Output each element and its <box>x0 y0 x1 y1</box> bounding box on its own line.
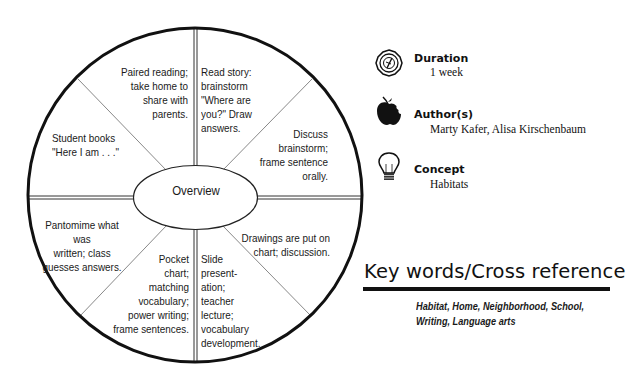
keywords-heading: Key words/Cross reference <box>364 260 625 283</box>
segment-slide-presentation: Slide present- ation; teacher lecture; v… <box>201 252 287 350</box>
keywords-underline <box>363 287 610 291</box>
center-overview-label: Overview <box>141 183 250 198</box>
duration-value: 1 week <box>430 66 463 78</box>
concept-title: Concept <box>414 163 465 176</box>
segment-pantomime: Pantomime what was written; class guesse… <box>36 218 129 274</box>
authors-value: Marty Kafer, Alisa Kirschenbaum <box>430 123 586 135</box>
segment-discuss-brainstorm: Discuss brainstorm; frame sentence orall… <box>242 127 328 183</box>
activity-wheel-diagram: Overview Paired reading; take home to sh… <box>0 0 400 390</box>
duration-title: Duration <box>414 52 468 65</box>
segment-paired-reading: Paired reading; take home to share with … <box>99 65 188 121</box>
apple-icon <box>374 95 404 129</box>
keywords-list: Habitat, Home, Neighborhood, School, Wri… <box>416 299 600 329</box>
lightbulb-icon <box>374 150 404 184</box>
authors-title: Author(s) <box>414 108 473 121</box>
clock-badge-icon <box>374 48 404 82</box>
concept-value: Habitats <box>430 178 468 190</box>
segment-read-story: Read story: brainstorm "Where are you?" … <box>201 65 287 135</box>
segment-student-books: Student books "Here I am . . ." <box>52 131 138 159</box>
